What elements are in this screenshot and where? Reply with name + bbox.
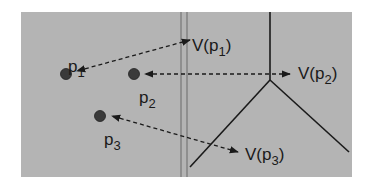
site-point-p3 [95,111,106,122]
voronoi-diagram: p1p2p3 V(p1)V(p2)V(p3) [0,0,371,190]
site-point-p2 [129,69,140,80]
